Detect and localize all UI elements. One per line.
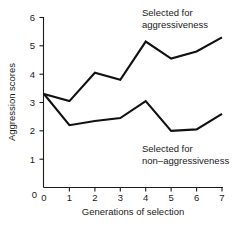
chart-canvas: 6 5 4 3 2 1 0 0 1 2 3 4 5 6 7 [0,0,239,231]
y-tick-label-0: 0 [32,189,37,200]
x-tick-label-6: 6 [194,192,199,203]
y-tick-label-2: 2 [30,125,35,136]
annotation-lower: Selected for non–aggressiveness [142,143,229,166]
annotation-lower-line2: non–aggressiveness [142,155,229,166]
x-tick-label-5: 5 [168,192,173,203]
annotation-upper: Selected for aggressiveness [142,7,208,30]
y-tick-label-3: 3 [30,97,35,108]
aggression-scores-line-chart: 6 5 4 3 2 1 0 0 1 2 3 4 5 6 7 [0,0,239,231]
y-tick-label-6: 6 [30,12,35,23]
x-tick-label-0: 0 [41,192,46,203]
series-line-selected-for-aggressiveness [44,37,222,101]
y-tick-labels: 6 5 4 3 2 1 0 [30,12,37,200]
x-axis-title: Generations of selection [82,206,184,217]
y-tick-label-1: 1 [30,154,35,165]
x-tick-label-3: 3 [118,192,123,203]
y-tick-marks [40,18,44,160]
annotation-lower-line1: Selected for [142,143,193,154]
y-tick-label-5: 5 [30,40,35,51]
x-tick-label-7: 7 [219,192,224,203]
x-tick-labels: 0 1 2 3 4 5 6 7 [41,192,224,203]
series-group [44,37,222,131]
y-tick-label-4: 4 [30,69,35,80]
x-tick-label-1: 1 [67,192,72,203]
annotation-upper-line1: Selected for [142,7,193,18]
y-axis-title: Aggression scores [6,63,17,141]
x-tick-label-4: 4 [143,192,148,203]
annotation-upper-line2: aggressiveness [142,19,208,30]
x-tick-label-2: 2 [92,192,97,203]
